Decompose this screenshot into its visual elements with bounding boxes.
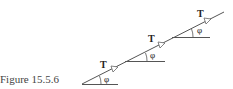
segment-2: φ T (125, 33, 165, 62)
tension-label: T (148, 33, 155, 44)
string-tension-diagram: φ T φ T φ T (0, 0, 233, 89)
tension-arrow-icon (204, 18, 211, 24)
angle-label: φ (150, 50, 155, 60)
tension-arrow-icon (158, 42, 165, 48)
tension-label: T (197, 8, 204, 19)
tension-label: T (100, 59, 107, 70)
tension-arrow-icon (111, 66, 118, 72)
angle-label: φ (197, 25, 202, 35)
segment-1: φ T (82, 59, 118, 85)
angle-arc-icon (100, 76, 102, 84)
angle-arc-icon (146, 53, 148, 61)
segment-3: φ T (172, 8, 211, 38)
angle-arc-icon (192, 29, 194, 37)
angle-label: φ (104, 74, 109, 84)
